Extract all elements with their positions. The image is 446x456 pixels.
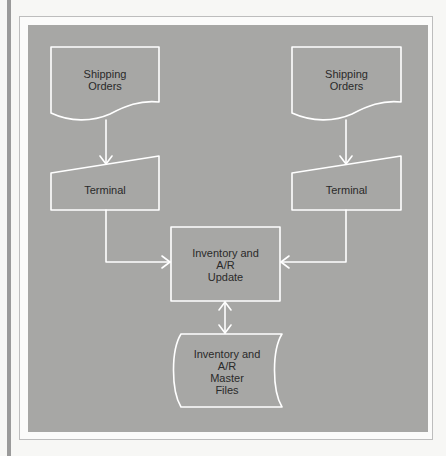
label-line: Shipping	[51, 68, 159, 80]
label-line: Files	[172, 384, 282, 396]
label-line: A/R	[172, 360, 282, 372]
label-line: A/R	[171, 259, 280, 271]
label-master: Inventory and A/R Master Files	[172, 348, 282, 396]
label-update: Inventory and A/R Update	[171, 247, 280, 283]
label-line: Master	[172, 372, 282, 384]
label-line: Update	[171, 271, 280, 283]
label-doc-left: Shipping Orders	[51, 68, 159, 92]
label-line: Orders	[292, 80, 401, 92]
label-line: Terminal	[51, 184, 159, 196]
label-line: Terminal	[292, 184, 401, 196]
terminal-shape-left	[51, 156, 159, 210]
label-line: Inventory and	[171, 247, 280, 259]
arrow-terminal-right-to-update	[281, 210, 346, 262]
arrow-terminal-left-to-update	[106, 210, 170, 262]
label-line: Orders	[51, 80, 159, 92]
label-doc-right: Shipping Orders	[292, 68, 401, 92]
label-terminal-left: Terminal	[51, 184, 159, 196]
label-terminal-right: Terminal	[292, 184, 401, 196]
label-line: Shipping	[292, 68, 401, 80]
label-line: Inventory and	[172, 348, 282, 360]
